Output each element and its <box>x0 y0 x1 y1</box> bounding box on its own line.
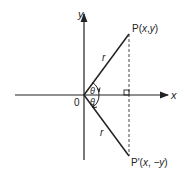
origin-label: 0 <box>74 97 80 108</box>
x-axis-label: x <box>170 89 177 101</box>
reflection-diagram: y x 0 r r θ θ P(x,y) P'(x, −y) <box>0 0 186 177</box>
angle-label-upper: θ <box>90 86 95 96</box>
radius-label-upper: r <box>102 52 106 63</box>
point-p-label: P(x,y) <box>132 23 158 34</box>
point-p-prime-label: P'(x, −y) <box>131 157 168 168</box>
right-angle-marker <box>124 90 129 95</box>
angle-arrowhead-upper <box>98 88 101 93</box>
radius-label-lower: r <box>100 127 104 138</box>
angle-label-lower: θ <box>90 97 95 107</box>
